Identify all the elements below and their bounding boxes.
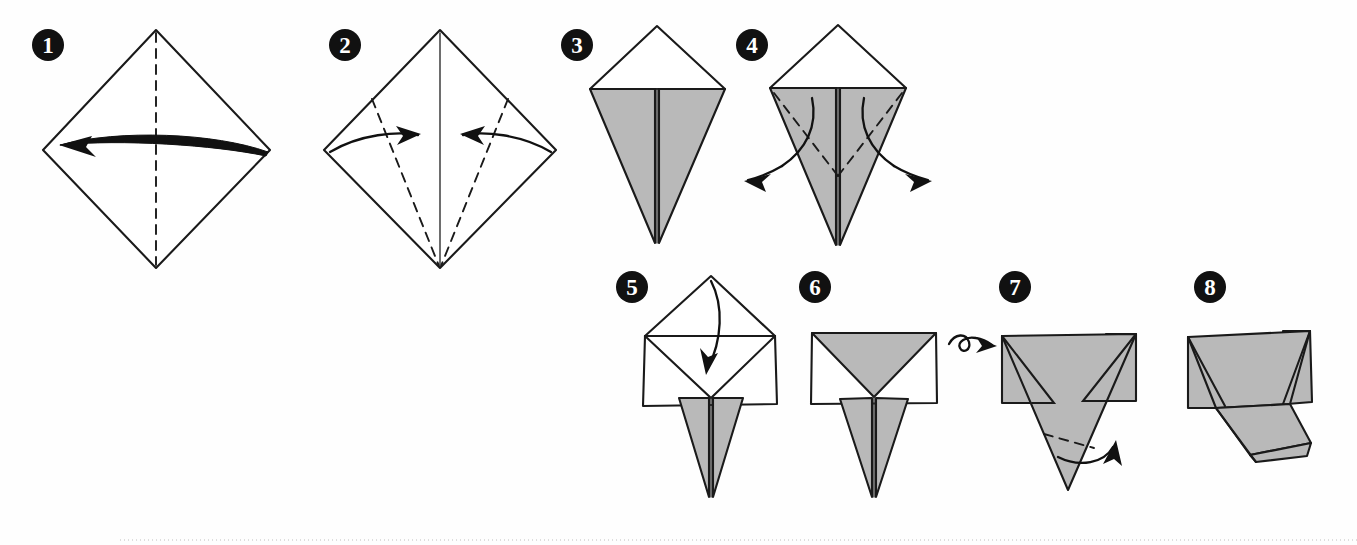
- step-7-badge: 7: [999, 271, 1031, 303]
- step-6-badge-label: 6: [809, 275, 821, 300]
- step-2-badge: 2: [329, 29, 361, 61]
- step-6-badge: 6: [799, 271, 831, 303]
- step-4-figure: [744, 25, 932, 245]
- step-3-figure: [590, 26, 725, 243]
- step-1-figure: [43, 30, 270, 268]
- step-5-badge: 5: [616, 271, 648, 303]
- step-4-badge-label: 4: [746, 33, 758, 58]
- step-5-badge-label: 5: [626, 275, 638, 300]
- origami-diagram-canvas: 1 2: [0, 0, 1357, 545]
- step-1-badge-label: 1: [42, 33, 54, 58]
- step-8-badge: 8: [1194, 271, 1226, 303]
- step-5-band: [643, 336, 777, 406]
- step-1-badge: 1: [32, 29, 64, 61]
- turn-over-icon: [949, 335, 997, 353]
- step-7-figure: [1002, 334, 1136, 490]
- step-5-right-point: [713, 398, 743, 497]
- step-2-badge-label: 2: [339, 33, 351, 58]
- step-5-left-point: [679, 398, 709, 497]
- step-5-figure: [643, 276, 777, 497]
- step-7-main-triangle: [1002, 334, 1136, 490]
- step-2-figure: [324, 30, 556, 268]
- step-4-top-white-triangle: [770, 25, 906, 88]
- step-7-arrowhead: [1103, 440, 1122, 466]
- step-4-badge: 4: [736, 29, 768, 61]
- step-6-left-point: [840, 398, 872, 497]
- step-3-right-flap: [659, 89, 725, 243]
- origami-instruction-sheet: 1 2: [0, 0, 1357, 545]
- step-3-left-flap: [590, 89, 655, 243]
- step-5-top-triangle: [645, 276, 775, 336]
- step-8-figure: [1188, 331, 1312, 462]
- step-8-badge-label: 8: [1204, 275, 1216, 300]
- step-7-badge-label: 7: [1009, 275, 1021, 300]
- step-6-figure: [811, 333, 997, 497]
- step-6-right-point: [876, 398, 908, 497]
- step-3-top-white-triangle: [590, 26, 725, 89]
- step-3-badge: 3: [561, 29, 593, 61]
- step-3-badge-label: 3: [571, 33, 583, 58]
